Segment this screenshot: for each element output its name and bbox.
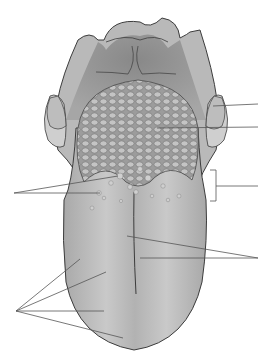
bracket-sulcus-terminalis: [210, 170, 258, 201]
tongue-diagram: [0, 0, 272, 364]
palatine-tonsil-right: [206, 95, 228, 147]
palatine-tonsil-left: [44, 95, 66, 147]
tongue-body: [63, 80, 206, 350]
